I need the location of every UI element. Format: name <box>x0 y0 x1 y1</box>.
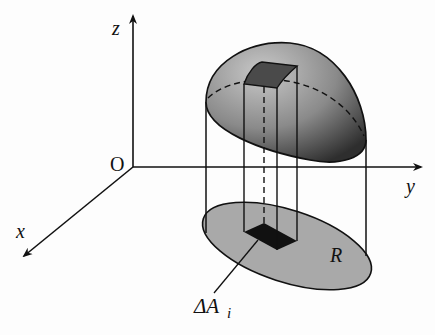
delta-a-label: ΔA <box>193 294 219 318</box>
diagram-canvas: z y x O R ΔA i <box>0 0 435 335</box>
y-axis-label: y <box>404 175 415 198</box>
region-label: R <box>329 244 342 266</box>
x-axis-label: x <box>15 220 25 242</box>
z-axis-label: z <box>111 17 120 39</box>
x-axis <box>24 167 133 256</box>
solid-volume-diagram: z y x O R ΔA i <box>0 0 435 335</box>
region-r <box>192 185 382 308</box>
delta-a-subscript: i <box>227 305 231 321</box>
top-surface <box>206 43 366 162</box>
origin-label: O <box>110 153 124 175</box>
